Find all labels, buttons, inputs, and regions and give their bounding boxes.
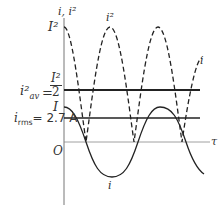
squared-curve	[64, 27, 202, 142]
y-axis-label: i, i²	[58, 6, 76, 17]
fraction-denominator: 2	[50, 86, 62, 99]
average-square-fraction: I² 2	[50, 72, 62, 99]
fraction-numerator: I²	[50, 72, 62, 86]
x-axis-label: τ	[211, 136, 217, 147]
waveform-diagram: i, i² I² i² i i²av = I² 2 I irms= 2.7 A …	[0, 0, 221, 211]
squared-curve-label: i²	[106, 12, 114, 23]
average-square-symbol: i²av	[20, 84, 39, 100]
current-curve-label: i	[108, 180, 112, 191]
rms-label: irms= 2.7 A	[14, 112, 78, 127]
origin-label: O	[53, 145, 63, 157]
peak-squared-label: I²	[48, 20, 58, 33]
squared-curve-right-label: i	[200, 55, 204, 66]
